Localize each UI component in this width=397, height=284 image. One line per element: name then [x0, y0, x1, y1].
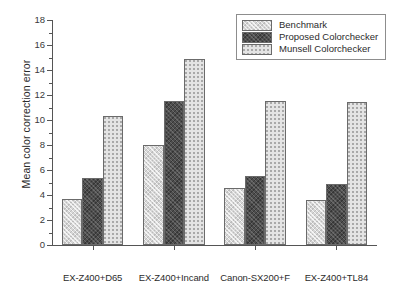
bar — [184, 59, 205, 245]
y-tick-major — [47, 70, 52, 71]
y-tick-major — [47, 120, 52, 121]
x-tick — [336, 245, 337, 250]
y-tick-minor — [49, 83, 52, 84]
y-tick-major — [47, 245, 52, 246]
y-tick-minor — [49, 33, 52, 34]
y-tick-label: 12 — [34, 90, 45, 100]
bar — [306, 200, 327, 245]
y-tick-label: 8 — [40, 140, 45, 150]
x-axis-line — [52, 245, 377, 246]
y-tick-label: 16 — [34, 40, 45, 50]
y-tick-label: 10 — [34, 115, 45, 125]
bar — [224, 188, 245, 245]
x-tick — [93, 245, 94, 250]
y-tick-label: 14 — [34, 65, 45, 75]
y-tick-major — [47, 170, 52, 171]
y-tick-label: 4 — [40, 190, 45, 200]
x-tick — [174, 245, 175, 250]
y-tick-label: 2 — [40, 215, 45, 225]
bar — [347, 102, 368, 245]
legend-swatch-icon — [242, 20, 272, 31]
x-tick-label: EX-Z400+TL84 — [305, 272, 369, 283]
legend-label: Munsell Colorchecker — [279, 44, 370, 54]
y-tick-minor — [49, 108, 52, 109]
y-tick-major — [47, 95, 52, 96]
legend-item: Proposed Colorchecker — [242, 31, 378, 43]
y-tick-minor — [49, 133, 52, 134]
legend: BenchmarkProposed ColorcheckerMunsell Co… — [236, 14, 386, 60]
y-tick-major — [47, 220, 52, 221]
bar — [143, 145, 164, 245]
y-tick-minor — [49, 183, 52, 184]
bar — [326, 184, 347, 245]
x-tick-label: EX-Z400+D65 — [63, 272, 122, 283]
y-tick-major — [47, 20, 52, 21]
y-axis-title: Mean color correction error — [20, 34, 32, 214]
x-tick — [255, 245, 256, 250]
y-tick-minor — [49, 233, 52, 234]
bar — [103, 116, 124, 245]
legend-label: Proposed Colorchecker — [279, 32, 378, 42]
y-axis-line — [52, 20, 53, 245]
bar — [164, 101, 185, 245]
y-tick-minor — [49, 158, 52, 159]
y-tick-minor — [49, 58, 52, 59]
bar — [265, 101, 286, 245]
legend-swatch-icon — [242, 32, 272, 43]
x-tick-label: Canon-SX200+F — [220, 272, 290, 283]
x-tick-label: EX-Z400+Incand — [139, 272, 209, 283]
bar — [82, 178, 103, 246]
legend-item: Benchmark — [242, 19, 378, 31]
bar — [62, 199, 83, 245]
legend-item: Munsell Colorchecker — [242, 43, 378, 55]
y-tick-major — [47, 145, 52, 146]
y-tick-minor — [49, 208, 52, 209]
y-tick-label: 0 — [40, 240, 45, 250]
y-tick-major — [47, 45, 52, 46]
bar — [245, 176, 266, 245]
y-tick-label: 18 — [34, 15, 45, 25]
y-tick-major — [47, 195, 52, 196]
legend-swatch-icon — [242, 44, 272, 55]
bar-chart-figure: Mean color correction error 024681012141… — [0, 0, 397, 284]
y-tick-label: 6 — [40, 165, 45, 175]
legend-label: Benchmark — [279, 20, 327, 30]
